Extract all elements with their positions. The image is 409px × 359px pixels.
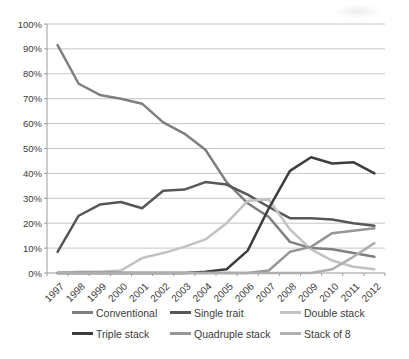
y-axis-tick-label: 80% xyxy=(23,68,43,79)
legend-item-double-stack: Double stack xyxy=(280,307,409,319)
y-axis-tick-label: 70% xyxy=(23,93,43,104)
chart-svg: 0%10%20%30%40%50%60%70%80%90%100%1997199… xyxy=(0,0,409,302)
series-line-triple-stack xyxy=(58,157,375,273)
legend-line-swatch xyxy=(280,332,301,335)
x-axis-tick-label: 2011 xyxy=(339,280,362,302)
x-axis-tick-label: 2004 xyxy=(190,280,214,302)
x-axis-tick-label: 2010 xyxy=(317,280,341,302)
legend-label: Double stack xyxy=(304,307,365,319)
y-axis-tick-label: 50% xyxy=(23,143,43,154)
x-axis-tick-label: 2005 xyxy=(211,280,235,302)
series-line-quadruple-stack xyxy=(58,228,375,273)
legend-label: Triple stack xyxy=(96,328,149,340)
legend-line-swatch xyxy=(72,332,93,335)
legend-item-single-trait: Single trait xyxy=(170,307,280,319)
legend-line-swatch xyxy=(170,332,191,335)
legend-label: Quadruple stack xyxy=(194,328,270,340)
x-axis-tick-label: 2012 xyxy=(359,280,383,302)
y-axis-tick-label: 40% xyxy=(23,168,43,179)
chart-container: 0%10%20%30%40%50%60%70%80%90%100%1997199… xyxy=(0,0,409,359)
legend-row: Triple stackQuadruple stackStack of 8 xyxy=(0,323,409,344)
legend-line-swatch xyxy=(72,311,93,314)
y-axis-tick-label: 100% xyxy=(18,19,43,30)
x-axis-tick-label: 2003 xyxy=(169,280,193,302)
legend-row: ConventionalSingle traitDouble stack xyxy=(0,302,409,323)
x-axis-tick-label: 2002 xyxy=(148,280,172,302)
y-axis-tick-label: 20% xyxy=(23,218,43,229)
legend-item-quadruple-stack: Quadruple stack xyxy=(170,328,280,340)
y-axis-tick-label: 60% xyxy=(23,118,43,129)
chart-legend: ConventionalSingle traitDouble stackTrip… xyxy=(0,302,409,344)
y-axis-tick-label: 30% xyxy=(23,193,43,204)
y-axis-tick-label: 90% xyxy=(23,43,43,54)
x-axis-tick-label: 1998 xyxy=(64,280,88,302)
x-axis-tick-label: 2007 xyxy=(254,280,278,302)
legend-item-conventional: Conventional xyxy=(72,307,170,319)
x-axis-tick-label: 2006 xyxy=(233,280,257,302)
x-axis-tick-label: 1999 xyxy=(85,280,109,302)
legend-item-stack-of-8: Stack of 8 xyxy=(280,328,409,340)
x-axis-tick-label: 2009 xyxy=(296,280,320,302)
y-axis-tick-label: 10% xyxy=(23,243,43,254)
legend-label: Conventional xyxy=(96,307,157,319)
x-axis-tick-label: 2000 xyxy=(106,280,130,302)
legend-label: Single trait xyxy=(194,307,244,319)
legend-item-triple-stack: Triple stack xyxy=(72,328,170,340)
series-line-single-trait xyxy=(58,182,375,252)
legend-line-swatch xyxy=(280,311,301,314)
legend-line-swatch xyxy=(170,311,191,314)
x-axis-tick-label: 2001 xyxy=(127,280,151,302)
x-axis-tick-label: 1997 xyxy=(42,280,66,302)
x-axis-tick-label: 2008 xyxy=(275,280,299,302)
series-line-conventional xyxy=(58,45,375,257)
legend-label: Stack of 8 xyxy=(304,328,351,340)
y-axis-tick-label: 0% xyxy=(28,268,42,279)
